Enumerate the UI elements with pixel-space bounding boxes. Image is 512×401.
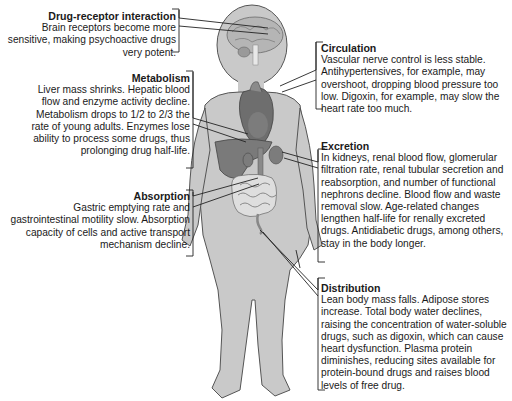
callout-title: Circulation	[321, 42, 512, 54]
callout-body: Brain receptors become more sensitive, m…	[0, 22, 176, 59]
callout-absorption: Absorption Gastric emptying rate and gas…	[10, 190, 190, 251]
callout-body: Lean body mass falls. Adipose stores inc…	[321, 294, 512, 392]
callout-circulation: Circulation Vascular nerve control is le…	[321, 42, 512, 115]
callout-title: Absorption	[10, 190, 190, 202]
callout-distribution: Distribution Lean body mass falls. Adipo…	[321, 282, 512, 392]
callout-excretion: Excretion In kidneys, renal blood flow, …	[321, 140, 512, 250]
callout-drug-receptor: Drug-receptor interaction Brain receptor…	[0, 10, 176, 59]
callout-body: Vascular nerve control is less stable. A…	[321, 54, 512, 115]
callout-metabolism: Metabolism Liver mass shrinks. Hepatic b…	[18, 72, 190, 157]
callout-title: Excretion	[321, 140, 512, 152]
callout-body: Liver mass shrinks. Hepatic blood flow a…	[18, 84, 190, 157]
callout-body: In kidneys, renal blood flow, glomerular…	[321, 152, 512, 250]
callout-title: Drug-receptor interaction	[0, 10, 176, 22]
callout-title: Distribution	[321, 282, 512, 294]
callout-body: Gastric emptying rate and gastrointestin…	[10, 202, 190, 251]
callout-title: Metabolism	[18, 72, 190, 84]
